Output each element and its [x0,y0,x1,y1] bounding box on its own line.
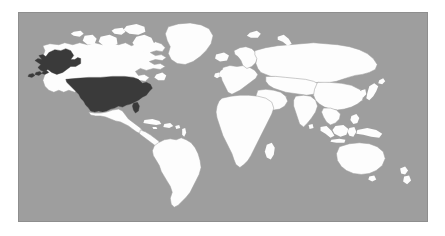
world-map-figure [0,0,445,236]
world-map-svg [19,13,427,221]
map-panel [18,12,428,222]
